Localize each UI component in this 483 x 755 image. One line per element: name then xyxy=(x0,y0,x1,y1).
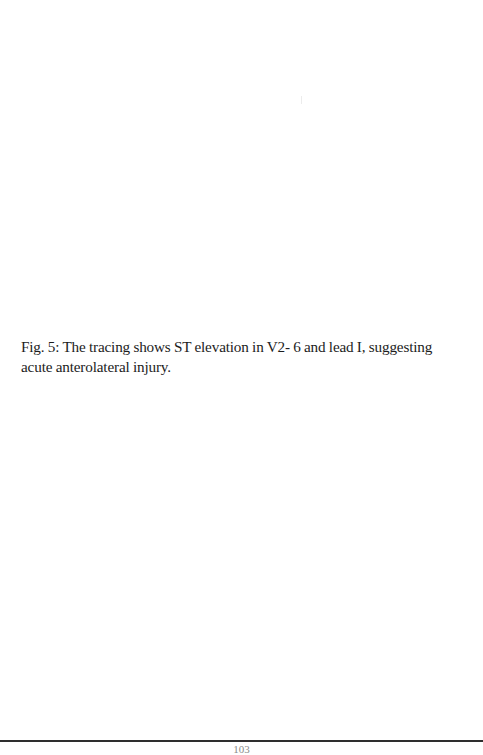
figure-caption: Fig. 5: The tracing shows ST elevation i… xyxy=(21,337,451,377)
figure-label: Fig. 5: xyxy=(21,338,59,355)
page-number: 103 xyxy=(0,743,483,755)
figure-caption-text: The tracing shows ST elevation in V2- 6 … xyxy=(21,338,432,375)
footer-divider xyxy=(0,740,483,742)
faint-scan-mark xyxy=(301,96,302,104)
figure-image-area xyxy=(21,0,461,330)
